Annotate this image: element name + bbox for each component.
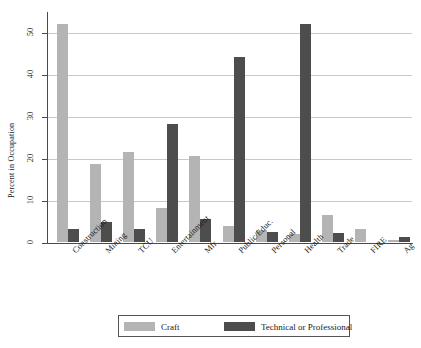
legend-entry-craft: Craft [124, 320, 180, 333]
bar [223, 226, 234, 242]
bar-group [189, 11, 211, 242]
y-axis-tick [42, 201, 47, 202]
y-axis-tick-label: 10 [25, 190, 35, 210]
bar [300, 24, 311, 242]
bar [234, 57, 245, 242]
bar-group [57, 11, 79, 242]
x-axis-line [47, 243, 413, 244]
legend-swatch-craft [124, 322, 155, 331]
bar [355, 229, 366, 242]
y-axis-tick [42, 75, 47, 76]
bar-chart-figure: Percent in Occupation 01020304050 Constr… [0, 0, 421, 348]
bar [167, 124, 178, 242]
bar-group [90, 11, 112, 242]
y-axis-tick-label: 20 [25, 148, 35, 168]
legend-label-craft: Craft [161, 322, 180, 332]
y-axis-line [47, 12, 48, 244]
y-axis-tick [42, 159, 47, 160]
bar [57, 24, 68, 242]
legend-entry-technical-or-professional: Technical or Professional [224, 320, 352, 333]
legend-swatch-technical-or-professional [224, 322, 255, 331]
bar [388, 240, 399, 242]
bar-group [156, 11, 178, 242]
chart-legend: Craft Technical or Professional [118, 315, 350, 337]
bar [156, 208, 167, 242]
bar-group [289, 11, 311, 242]
y-axis-tick [42, 33, 47, 34]
y-axis-tick-label: 0 [25, 232, 35, 252]
bar-group [123, 11, 145, 242]
plot-area [47, 12, 412, 243]
bar-group [223, 11, 245, 242]
y-axis-tick-label: 30 [25, 106, 35, 126]
bar-group [256, 11, 278, 242]
y-axis-tick-label: 50 [25, 22, 35, 42]
bar-group [322, 11, 344, 242]
bar-group [355, 11, 377, 242]
bar-group [388, 11, 410, 242]
y-axis-tick [42, 243, 47, 244]
y-axis-tick-label: 40 [25, 64, 35, 84]
y-axis-tick [42, 117, 47, 118]
legend-label-technical-or-professional: Technical or Professional [261, 322, 352, 332]
bar [123, 152, 134, 242]
